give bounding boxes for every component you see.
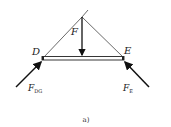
free-body-diagram: D E F FDG FE a) (0, 0, 171, 127)
figure-caption: a) (83, 116, 90, 124)
truss-lines (44, 10, 123, 57)
label-e: E (123, 45, 132, 56)
label-d: D (31, 46, 40, 57)
left-member (44, 17, 82, 57)
member-extension (82, 10, 88, 17)
label-fe: FE (122, 83, 133, 94)
label-f: F (70, 26, 79, 37)
beam-de (42, 57, 124, 61)
label-fdg: FDG (27, 83, 42, 94)
right-member (82, 17, 123, 57)
